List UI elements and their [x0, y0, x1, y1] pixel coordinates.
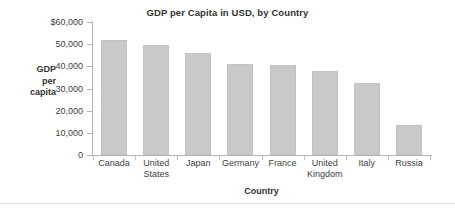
y-axis-tick-label: 40,000: [55, 61, 83, 71]
x-axis-category-label: Russia: [388, 158, 430, 169]
y-axis-tick: [87, 155, 92, 156]
x-axis-category-label-line: Italy: [346, 158, 388, 169]
bar-slot: [304, 22, 346, 155]
y-axis-title-line-1: GDP: [8, 64, 56, 76]
bar-slot: [388, 22, 430, 155]
x-axis-category-label: UnitedKingdom: [304, 158, 346, 180]
bottom-divider: [0, 203, 455, 204]
x-axis-category-label: Japan: [177, 158, 219, 169]
y-axis-tick-label: 50,000: [55, 39, 83, 49]
y-axis-tick-label: 0: [78, 150, 83, 160]
bar[interactable]: [396, 125, 422, 155]
y-axis-tick: [87, 111, 92, 112]
bar-slot: [135, 22, 177, 155]
bar[interactable]: [227, 64, 253, 155]
plot-area: [93, 22, 430, 155]
x-axis-category-label: Italy: [346, 158, 388, 169]
x-axis-category-label-line: Canada: [93, 158, 135, 169]
bar-slot: [262, 22, 304, 155]
x-axis-category-label-line: United: [135, 158, 177, 169]
bar-slot: [177, 22, 219, 155]
y-axis-tick: [87, 22, 92, 23]
y-axis-title-line-3: capita: [8, 87, 56, 99]
y-axis-tick-label: $60,000: [50, 17, 83, 27]
x-axis-category-label: Canada: [93, 158, 135, 169]
y-axis-title: GDP per capita: [8, 64, 56, 99]
bar[interactable]: [270, 65, 296, 155]
x-axis-category-label-line: United: [304, 158, 346, 169]
y-axis-tick: [87, 44, 92, 45]
y-axis-tick: [87, 66, 92, 67]
bar-slot: [346, 22, 388, 155]
x-axis-category-label-line: States: [135, 169, 177, 180]
x-axis-tick: [430, 156, 431, 160]
y-axis-tick-label: 20,000: [55, 106, 83, 116]
bar[interactable]: [312, 71, 338, 155]
x-axis-category-label: France: [262, 158, 304, 169]
chart-figure: GDP per Capita in USD, by Country GDP pe…: [0, 0, 455, 209]
y-axis-tick: [87, 89, 92, 90]
y-axis-tick-label: 30,000: [55, 84, 83, 94]
x-axis-category-label: Germany: [219, 158, 261, 169]
bar-slot: [93, 22, 135, 155]
bar[interactable]: [185, 53, 211, 155]
bar-slot: [219, 22, 261, 155]
x-axis-category-label: UnitedStates: [135, 158, 177, 180]
x-axis-title: Country: [93, 186, 430, 196]
x-axis-category-label-line: Russia: [388, 158, 430, 169]
x-axis-category-label-line: Germany: [219, 158, 261, 169]
y-axis-title-line-2: per: [8, 76, 56, 88]
y-axis-tick: [87, 133, 92, 134]
bar[interactable]: [143, 45, 169, 155]
x-axis-category-label-line: France: [262, 158, 304, 169]
x-axis-category-label-line: Kingdom: [304, 169, 346, 180]
bar[interactable]: [101, 40, 127, 155]
x-axis-category-label-line: Japan: [177, 158, 219, 169]
bar[interactable]: [354, 83, 380, 155]
y-axis-tick-label: 10,000: [55, 128, 83, 138]
